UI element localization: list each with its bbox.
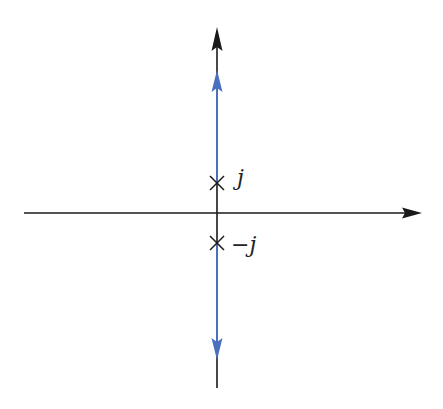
locus-branch-lower bbox=[212, 243, 223, 360]
root-locus-diagram: j −j bbox=[0, 0, 443, 409]
pole-label-minus-j: −j bbox=[231, 232, 256, 257]
locus-branch-upper bbox=[212, 70, 223, 183]
real-axis bbox=[24, 208, 422, 219]
pole-label-j: j bbox=[232, 165, 244, 190]
pole-positive-j: j bbox=[210, 165, 244, 190]
real-axis-arrow-icon bbox=[402, 208, 422, 219]
